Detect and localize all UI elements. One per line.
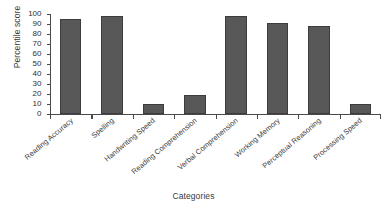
y-tick-label: 10: [20, 98, 42, 109]
x-axis-category-labels: Reading AccuracySpellingHandwriting Spee…: [50, 116, 381, 186]
x-axis-title: Categories: [0, 191, 387, 201]
bar: [60, 19, 82, 114]
bar-series: [50, 14, 381, 115]
y-tick-label: 90: [20, 18, 42, 29]
y-tick-label: 100: [20, 8, 42, 19]
bar: [143, 104, 165, 114]
y-tick-label: 40: [20, 68, 42, 79]
bar: [350, 104, 372, 114]
plot-area: 0102030405060708090100: [50, 14, 381, 115]
y-tick-label: 80: [20, 28, 42, 39]
bar: [225, 16, 247, 114]
y-tick-label: 30: [20, 78, 42, 89]
y-tick-label: 0: [20, 108, 42, 119]
bar: [308, 26, 330, 114]
y-tick-label: 70: [20, 38, 42, 49]
y-tick-label: 60: [20, 48, 42, 59]
bar: [184, 95, 206, 114]
x-category-label: Reading Accuracy: [22, 116, 74, 162]
bar: [101, 16, 123, 114]
bar-chart: Percentile score 0102030405060708090100 …: [0, 0, 387, 210]
x-category-label: Spelling: [90, 116, 116, 140]
y-tick-label: 50: [20, 58, 42, 69]
y-tick-label: 20: [20, 88, 42, 99]
bar: [267, 23, 289, 114]
